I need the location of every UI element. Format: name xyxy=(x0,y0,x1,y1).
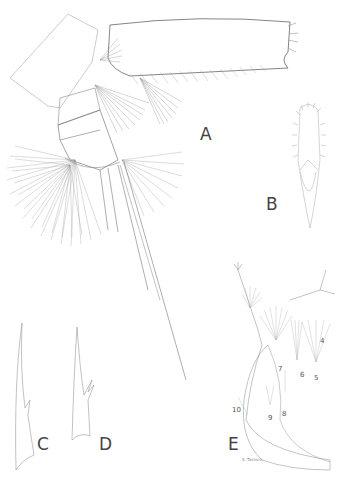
seta-number-7: 7 xyxy=(278,366,282,373)
panel-b-drawing xyxy=(292,102,326,228)
seta-number-6: 6 xyxy=(300,372,304,379)
illustration-plate xyxy=(0,0,348,482)
panel-c-drawing xyxy=(16,323,34,470)
seta-number-5: 5 xyxy=(314,375,318,382)
panel-label-e: E xyxy=(228,436,239,453)
seta-number-9: 9 xyxy=(268,415,272,422)
artist-signature: S. Tashorn xyxy=(242,458,263,462)
panel-label-a: A xyxy=(200,126,212,143)
panel-d-drawing xyxy=(72,327,94,440)
panel-label-c: C xyxy=(37,436,49,453)
panel-label-b: B xyxy=(266,196,278,213)
seta-number-4: 4 xyxy=(320,338,324,345)
panel-label-d: D xyxy=(99,436,112,453)
panel-e-drawing xyxy=(234,262,335,470)
seta-number-8: 8 xyxy=(282,411,286,418)
panel-a-drawing xyxy=(7,14,298,380)
seta-number-10: 10 xyxy=(232,407,241,414)
